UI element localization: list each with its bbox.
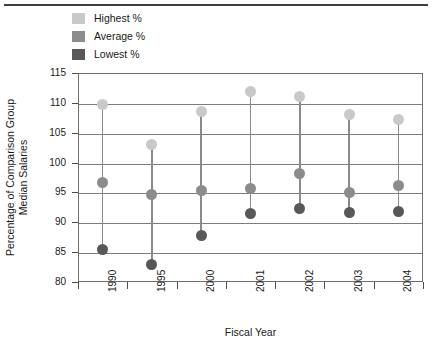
y-axis-tick-label: 95 (40, 187, 66, 197)
gridline (79, 223, 422, 224)
y-axis-tick-mark (72, 222, 78, 223)
x-axis-tick-mark (324, 282, 325, 289)
x-axis-tick-label: 1995 (157, 270, 167, 292)
y-axis-title-line2: Median Salaries (17, 140, 29, 215)
y-axis-tick-label: 110 (40, 98, 66, 108)
x-axis-tick-mark (127, 282, 128, 289)
data-point-average (344, 187, 355, 198)
y-axis-title-line1: Percentage of Comparison Group (4, 99, 16, 256)
x-axis-tick-mark (226, 282, 227, 289)
y-axis-tick-label: 85 (40, 247, 66, 257)
x-axis-tick-mark (177, 282, 178, 289)
x-axis-tick-mark (423, 282, 424, 289)
data-point-lowest (344, 207, 355, 218)
data-point-lowest (245, 208, 256, 219)
y-axis-tick-mark (72, 192, 78, 193)
range-stem (200, 112, 202, 236)
y-axis-tick-mark (72, 252, 78, 253)
gridline (79, 253, 422, 254)
x-axis-tick-mark (374, 282, 375, 289)
data-point-highest (245, 86, 256, 97)
x-axis-tick-label: 1990 (108, 270, 118, 292)
data-point-lowest (393, 206, 404, 217)
range-stem (151, 145, 153, 265)
y-axis-tick-mark (72, 103, 78, 104)
x-axis-tick-label: 2003 (354, 270, 364, 292)
chart-plot-area: 11511010510095908580 1990199520002001200… (0, 0, 432, 346)
x-axis-tick-label: 2002 (305, 270, 315, 292)
y-axis-tick-label: 100 (40, 158, 66, 168)
data-point-lowest (97, 244, 108, 255)
data-point-average (196, 185, 207, 196)
y-axis-title: Percentage of Comparison Group Median Sa… (0, 73, 34, 282)
x-axis-tick-label: 2004 (403, 270, 413, 292)
range-stem (398, 120, 400, 212)
y-axis-tick-mark (72, 163, 78, 164)
data-point-highest (393, 114, 404, 125)
y-axis-tick-label: 115 (40, 68, 66, 78)
x-axis-tick-label: 2001 (256, 270, 266, 292)
range-stem (250, 92, 252, 214)
data-point-highest (196, 106, 207, 117)
y-axis-tick-label: 80 (40, 277, 66, 287)
x-axis-title: Fiscal Year (78, 326, 423, 338)
x-axis-tick-label: 2000 (206, 270, 216, 292)
x-axis-tick-mark (275, 282, 276, 289)
y-axis-tick-mark (72, 133, 78, 134)
y-axis-tick-mark (72, 73, 78, 74)
x-axis-tick-mark (78, 282, 79, 289)
range-stem (299, 97, 301, 209)
data-point-lowest (196, 230, 207, 241)
y-axis-tick-label: 90 (40, 217, 66, 227)
data-point-highest (344, 109, 355, 120)
y-axis-tick-label: 105 (40, 128, 66, 138)
